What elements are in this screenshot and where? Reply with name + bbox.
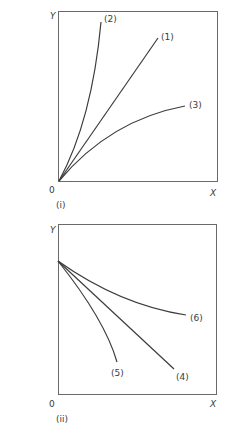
panel-ii-x-axis-label: X xyxy=(209,399,217,409)
curve-1-3-label: (3) xyxy=(189,100,202,110)
curve-4 xyxy=(58,261,174,369)
panel-i-caption: (i) xyxy=(56,200,66,210)
curve-2 xyxy=(59,22,101,181)
panel-i-origin-label: 0 xyxy=(49,185,55,195)
panel-ii-caption: (ii) xyxy=(56,414,68,424)
curve-1 xyxy=(59,38,158,181)
panel-i-y-axis-label: Y xyxy=(50,11,57,21)
curve-3 xyxy=(59,106,185,181)
curve-2-4-label: (4) xyxy=(176,372,189,382)
curve-2-5-label: (5) xyxy=(111,368,124,378)
curve-1-2-label: (2) xyxy=(104,14,117,24)
panel-ii: Y X 0 (ii) (6) (5) (4) xyxy=(49,225,217,425)
curve-6 xyxy=(58,261,186,315)
panel-i-x-axis-label: X xyxy=(209,188,217,198)
curve-5 xyxy=(58,261,117,362)
panel-ii-y-axis-label: Y xyxy=(50,225,57,235)
curve-2-6-label: (6) xyxy=(190,313,203,323)
panel-ii-frame xyxy=(59,225,217,395)
curve-1-1-label: (1) xyxy=(161,32,174,42)
diagram-canvas: Y X 0 (i) (2) (1) (3) Y X 0 (ii) (6) (5)… xyxy=(0,0,228,431)
panel-ii-origin-label: 0 xyxy=(49,399,55,409)
panel-i: Y X 0 (i) (2) (1) (3) xyxy=(49,11,218,210)
